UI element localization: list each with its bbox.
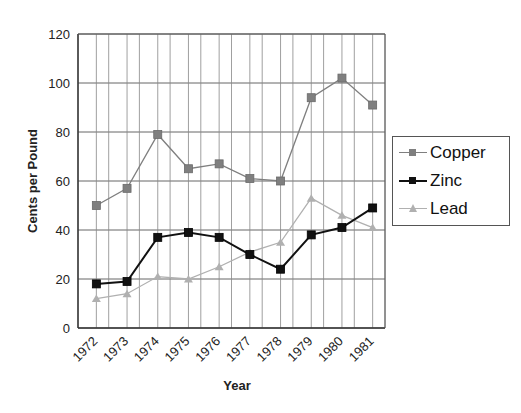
y-tick-label: 120 [48, 27, 70, 42]
data-point-square-icon [184, 165, 192, 173]
legend-item-copper: Copper [399, 140, 486, 166]
x-tick-label: 1974 [131, 334, 162, 365]
zinc-square-marker-icon [399, 175, 427, 187]
x-tick-label: 1975 [162, 334, 193, 365]
lead-triangle-marker-icon [399, 203, 427, 215]
data-point-square-icon [184, 228, 192, 236]
copper-square-marker-icon [399, 147, 427, 159]
data-point-triangle-icon [368, 224, 377, 232]
x-tick-label: 1972 [69, 334, 100, 365]
data-point-square-icon [277, 177, 285, 185]
legend-item-zinc: Zinc [399, 168, 462, 194]
data-point-square-icon [307, 231, 315, 239]
y-tick-label: 100 [48, 76, 70, 91]
data-point-triangle-icon [215, 263, 224, 271]
data-point-triangle-icon [123, 290, 132, 298]
y-axis-title: Cents per Pound [25, 129, 40, 233]
y-tick-label: 20 [56, 272, 70, 287]
legend: Copper Zinc Lead [392, 136, 510, 226]
x-tick-label: 1981 [346, 334, 377, 365]
data-point-square-icon [154, 233, 162, 241]
data-point-square-icon [277, 265, 285, 273]
x-axis-ticks: 1972197319741975197619771978197919801981 [69, 334, 376, 365]
x-tick-label: 1976 [192, 334, 223, 365]
data-point-square-icon [246, 251, 254, 259]
data-point-square-icon [338, 224, 346, 232]
x-tick-label: 1980 [315, 334, 346, 365]
data-point-triangle-icon [337, 211, 346, 219]
data-point-square-icon [92, 280, 100, 288]
data-point-square-icon [369, 204, 377, 212]
data-point-square-icon [369, 101, 377, 109]
data-point-square-icon [123, 277, 131, 285]
y-axis-ticks: 020406080100120 [48, 27, 70, 336]
y-tick-label: 40 [56, 223, 70, 238]
series-zinc [92, 204, 376, 288]
data-series [92, 74, 377, 302]
data-point-square-icon [338, 74, 346, 82]
x-tick-label: 1979 [284, 334, 315, 365]
data-point-square-icon [123, 184, 131, 192]
legend-label: Copper [430, 143, 486, 163]
y-tick-label: 0 [63, 321, 70, 336]
data-point-triangle-icon [276, 238, 285, 246]
legend-label: Lead [430, 199, 468, 219]
x-tick-label: 1973 [100, 334, 131, 365]
legend-label: Zinc [430, 171, 462, 191]
data-point-square-icon [246, 175, 254, 183]
y-tick-label: 60 [56, 174, 70, 189]
x-tick-label: 1977 [223, 334, 254, 365]
y-tick-label: 80 [56, 125, 70, 140]
data-point-square-icon [215, 160, 223, 168]
x-axis-title: Year [223, 378, 250, 393]
data-point-triangle-icon [307, 194, 316, 202]
data-point-square-icon [307, 94, 315, 102]
data-point-square-icon [154, 130, 162, 138]
data-point-square-icon [92, 202, 100, 210]
x-tick-label: 1978 [254, 334, 285, 365]
data-point-square-icon [215, 233, 223, 241]
series-copper [92, 74, 376, 209]
legend-item-lead: Lead [399, 196, 468, 222]
series-lead [92, 194, 377, 302]
